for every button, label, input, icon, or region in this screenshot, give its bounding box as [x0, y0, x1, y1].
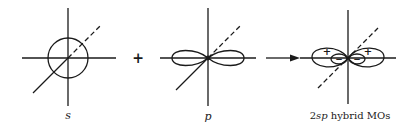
plus-operator: +: [132, 50, 144, 66]
plus-sign-right: +: [364, 46, 372, 57]
p-label: p: [204, 110, 211, 123]
plus-sign-left: +: [323, 46, 331, 57]
sp-hybridization-diagram: s + p + + − − 2sp hybrid MOs: [0, 0, 410, 128]
minus-sign-left: −: [335, 54, 343, 64]
arrow-icon: [266, 55, 300, 62]
nucleus: [206, 56, 210, 60]
y-axis-solid: [176, 58, 208, 90]
y-axis-dashed: [208, 26, 240, 58]
p-orbital-panel: [160, 8, 256, 106]
hybrid-orbital-panel: [300, 10, 396, 104]
minus-sign-right: −: [353, 54, 361, 64]
s-label: s: [65, 109, 71, 122]
hybrid-label: 2sp hybrid MOs: [310, 110, 391, 121]
y-axis-dashed: [68, 24, 102, 58]
s-orbital-panel: [22, 8, 116, 106]
y-axis-solid: [33, 58, 68, 93]
